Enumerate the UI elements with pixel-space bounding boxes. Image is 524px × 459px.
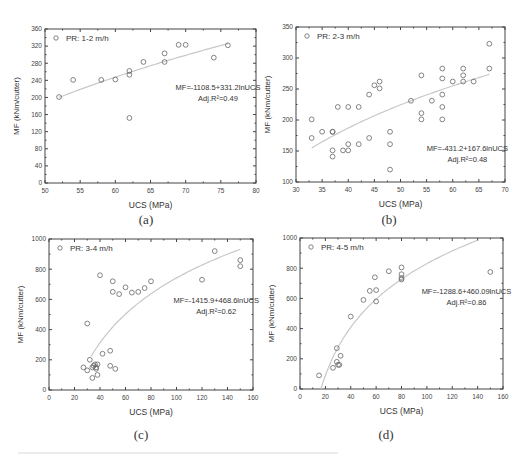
y-tick-label: 0: [293, 385, 297, 392]
x-tick-label: 80: [398, 393, 406, 400]
legend-label: PR: 3-4 m/h: [70, 244, 113, 253]
legend-label: PR: 2-3 m/h: [317, 32, 360, 41]
x-tick-label: 100: [171, 394, 182, 401]
data-point: [377, 86, 382, 91]
data-point: [440, 76, 445, 81]
data-point: [330, 154, 335, 159]
x-tick-label: 60: [449, 186, 457, 193]
data-point: [176, 42, 181, 47]
x-tick-label: 20: [322, 393, 330, 400]
chart-c: 02040608010012014016002004006008001000UC…: [0, 225, 262, 430]
figure-caption-faded: [18, 452, 338, 454]
data-point: [95, 373, 100, 378]
data-point: [367, 288, 372, 293]
data-point: [113, 366, 118, 371]
fit-equation: MF=-1108.5+331.2lnUCS: [176, 83, 261, 92]
x-tick-label: 100: [421, 393, 432, 400]
data-point: [113, 77, 118, 82]
data-point: [238, 264, 243, 269]
y-tick-label: 150: [282, 147, 293, 154]
data-point: [361, 298, 366, 303]
y-tick-label: 120: [31, 128, 42, 135]
data-point: [429, 98, 434, 103]
data-point: [117, 292, 122, 297]
x-tick-label: 55: [423, 186, 431, 193]
plot-frame: [300, 238, 503, 389]
x-tick-label: 60: [112, 187, 120, 194]
y-tick-label: 200: [31, 94, 42, 101]
y-axis-label: MF (kNm/cutter): [267, 284, 276, 342]
x-tick-label: 70: [182, 187, 190, 194]
data-point: [142, 286, 147, 291]
data-point: [108, 348, 113, 353]
data-point: [419, 111, 424, 116]
data-point: [346, 142, 351, 147]
x-tick-label: 40: [347, 393, 355, 400]
x-tick-label: 0: [47, 394, 51, 401]
fit-curve: [312, 74, 490, 148]
y-tick-label: 200: [282, 116, 293, 123]
x-tick-label: 50: [41, 187, 49, 194]
x-tick-label: 160: [498, 393, 509, 400]
x-tick-label: 35: [319, 186, 327, 193]
y-tick-label: 1000: [32, 235, 47, 242]
x-tick-label: 140: [222, 394, 233, 401]
data-point: [141, 60, 146, 65]
data-point: [98, 273, 103, 278]
y-axis-label: MF (kNm/cutter): [263, 75, 272, 133]
data-point: [372, 83, 377, 88]
data-point: [330, 148, 335, 153]
y-tick-label: 600: [35, 296, 46, 303]
y-tick-label: 400: [35, 326, 46, 333]
y-tick-label: 0: [38, 179, 42, 186]
data-point: [320, 129, 325, 134]
data-point: [461, 66, 466, 71]
data-point: [212, 249, 217, 254]
data-point: [419, 117, 424, 122]
x-tick-label: 55: [77, 187, 85, 194]
y-tick-label: 600: [286, 295, 297, 302]
y-axis-label: MF (kNm/cutter): [12, 77, 21, 135]
x-tick-label: 120: [447, 393, 458, 400]
data-point: [200, 277, 205, 282]
data-point: [341, 148, 346, 153]
y-tick-label: 200: [286, 355, 297, 362]
fit-r-squared: Adj.R²=0.62: [196, 307, 236, 316]
data-point: [419, 73, 424, 78]
x-tick-label: 40: [96, 394, 104, 401]
fit-equation: MF=-431.2+167.6lnUCS: [427, 144, 508, 153]
data-point: [367, 136, 372, 141]
x-tick-label: 30: [292, 186, 300, 193]
legend-marker-icon: [305, 34, 309, 38]
data-point: [317, 373, 322, 378]
data-point: [85, 368, 90, 373]
data-point: [377, 79, 382, 84]
y-tick-label: 360: [31, 25, 42, 32]
fit-equation: MF=-1288.6+460.09lnUCS: [422, 287, 512, 296]
data-point: [440, 105, 445, 110]
x-tick-label: 80: [252, 187, 260, 194]
data-point: [399, 265, 404, 270]
y-tick-label: 200: [35, 356, 46, 363]
data-point: [123, 285, 128, 290]
data-point: [374, 288, 379, 293]
data-point: [372, 275, 377, 280]
y-axis-label: MF (kNm/cutter): [16, 285, 25, 343]
data-point: [127, 116, 132, 121]
x-axis-label: UCS (MPa): [380, 406, 424, 416]
data-point: [487, 41, 492, 46]
data-point: [440, 117, 445, 122]
x-tick-label: 0: [298, 393, 302, 400]
x-tick-label: 50: [397, 186, 405, 193]
legend-marker-icon: [309, 245, 313, 249]
data-point: [87, 357, 92, 362]
legend-marker-icon: [58, 246, 62, 250]
fit-r-squared: Adj.R²=0.86: [447, 298, 487, 307]
fit-r-squared: Adj.R²=0.49: [198, 94, 238, 103]
data-point: [487, 66, 492, 71]
y-tick-label: 240: [31, 77, 42, 84]
y-tick-label: 320: [31, 42, 42, 49]
data-point: [330, 129, 335, 134]
y-tick-label: 800: [286, 265, 297, 272]
y-tick-label: 400: [286, 325, 297, 332]
